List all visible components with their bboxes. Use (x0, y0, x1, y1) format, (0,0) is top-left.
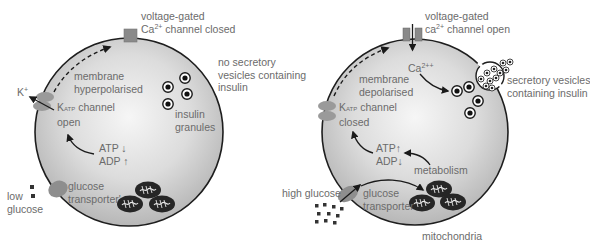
membrane-hyperpolarised-label: membranehyperpolarised (74, 70, 143, 95)
high-glucose-label: high glucose (282, 187, 341, 200)
insulin-granule-icon (180, 73, 190, 83)
right-katp-channel-label: KATP channelclosed (339, 101, 397, 128)
membrane-depolarised-label: membranedepolarised (359, 73, 413, 98)
right-ca-channel-open-right-icon (415, 28, 422, 41)
left-katp-channel-label: KATP channelopen (57, 101, 115, 128)
mitochondrion-icon (440, 194, 466, 211)
left-katp-channel-subunit-icon (33, 101, 51, 111)
insulin-granule-icon (473, 96, 483, 106)
insulin-granule-icon (163, 99, 173, 109)
secretory-vesicles-label: secretory vesiclescontaining insulin (507, 74, 590, 99)
mitochondrion-icon (149, 196, 175, 213)
insulin-granules-label: insulingranules (175, 108, 215, 133)
right-ca-channel-open-left-icon (403, 28, 410, 41)
no-secretory-vesicles-note: no secretoryvesicles containinginsulin (218, 56, 306, 94)
right-atp-adp-label: ATP↑ADP↓ (376, 142, 403, 167)
low-glucose-label: lowglucose (7, 190, 43, 215)
glucose-molecule-icon (30, 185, 34, 189)
high-glucose-molecules (315, 203, 344, 225)
left-glucose-transporter-label: glucosetransporter' (68, 180, 121, 205)
right-katp-channel-subunit-icon (318, 111, 336, 121)
insulin-granule-icon (452, 86, 462, 96)
insulin-granule-icon (465, 108, 475, 118)
right-ca-channel-label: voltage-gatedca2+ channel open (425, 10, 510, 35)
mitochondrion-icon (135, 182, 161, 199)
insulin-granule-icon (163, 82, 173, 92)
metabolism-label: metabolism (414, 164, 468, 177)
left-atp-adp-label: ATP ↓ADP ↑ (99, 142, 129, 167)
potassium-ion-label: K+ (17, 86, 28, 99)
mitochondrion-icon (117, 196, 143, 213)
mitochondria-label: mitochondria (422, 230, 482, 243)
right-glucose-transporter-label: glucosetransporter (363, 187, 414, 212)
insulin-granule-icon (464, 82, 474, 92)
left-ca-channel-label: voltage-gatedCa2+ channel closed (141, 10, 235, 35)
left-ca-channel-closed-icon (124, 29, 137, 42)
right-katp-channel-icon (318, 101, 336, 111)
left-katp-channel-icon (36, 92, 54, 102)
insulin-granule-icon (182, 89, 192, 99)
